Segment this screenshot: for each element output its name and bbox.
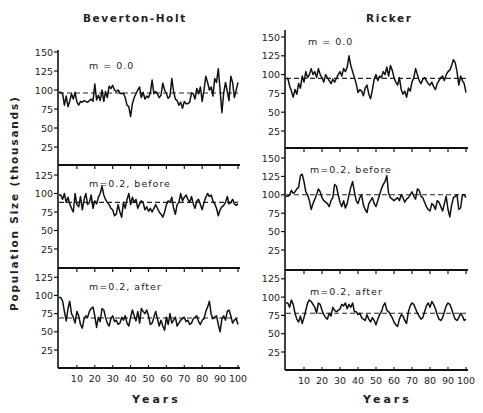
y-tick-label: 50 bbox=[268, 226, 280, 237]
x-tick-label: 20 bbox=[89, 373, 101, 384]
y-tick-label: 125 bbox=[262, 273, 280, 284]
y-tick-label: 25 bbox=[268, 245, 280, 256]
x-tick-label: 70 bbox=[178, 373, 190, 384]
population-series bbox=[59, 186, 238, 217]
y-tick-label: 50 bbox=[268, 107, 280, 118]
y-tick-label: 75 bbox=[268, 88, 280, 99]
y-axis-label: Population Size (thousands) bbox=[8, 131, 20, 311]
y-tick-label: 100 bbox=[35, 290, 53, 301]
y-tick-label: 50 bbox=[41, 326, 53, 337]
x-tick-label: 10 bbox=[71, 373, 83, 384]
y-tick-label: 75 bbox=[41, 207, 53, 218]
y-tick-label: 50 bbox=[41, 123, 53, 134]
y-tick-label: 100 bbox=[35, 85, 53, 96]
x-tick-label: 10 bbox=[298, 375, 310, 386]
panel-label: m = 0.0 bbox=[308, 36, 353, 47]
y-tick-label: 50 bbox=[268, 328, 280, 339]
y-tick-label: 150 bbox=[35, 47, 53, 58]
population-series bbox=[59, 298, 238, 332]
x-tick-label: 50 bbox=[142, 373, 154, 384]
y-tick-label: 100 bbox=[35, 188, 53, 199]
x-tick-label: 20 bbox=[316, 375, 328, 386]
panel-label: m=0.2, after bbox=[310, 286, 383, 297]
y-tick-label: 75 bbox=[41, 104, 53, 115]
y-tick-label: 25 bbox=[41, 142, 53, 153]
y-tick-label: 75 bbox=[41, 308, 53, 319]
y-tick-label: 100 bbox=[262, 69, 280, 80]
panel-label: m=0.2, before bbox=[89, 178, 171, 189]
panel-ricker-0: 255075100125150m = 0.0 bbox=[262, 30, 468, 148]
y-tick-label: 75 bbox=[268, 208, 280, 219]
population-series bbox=[286, 56, 466, 99]
y-tick-label: 150 bbox=[262, 153, 280, 164]
y-tick-label: 25 bbox=[41, 244, 53, 255]
y-tick-label: 150 bbox=[262, 32, 280, 43]
y-tick-label: 25 bbox=[268, 347, 280, 358]
x-tick-label: 100 bbox=[457, 375, 475, 386]
y-tick-label: 125 bbox=[262, 171, 280, 182]
x-tick-label: 80 bbox=[424, 375, 436, 386]
x-tick-label: 30 bbox=[107, 373, 119, 384]
panel-bh-2: 255075100125m=0.2, after1020304050607080… bbox=[35, 268, 247, 384]
x-tick-label: 30 bbox=[334, 375, 346, 386]
x-tick-label: 70 bbox=[406, 375, 418, 386]
x-tick-label: 40 bbox=[125, 373, 137, 384]
x-tick-label: 100 bbox=[229, 373, 247, 384]
x-tick-label: 60 bbox=[160, 373, 172, 384]
y-tick-label: 100 bbox=[262, 292, 280, 303]
panel-ricker-2: 255075100125m=0.2, after1020304050607080… bbox=[262, 270, 475, 386]
y-tick-label: 25 bbox=[41, 345, 53, 356]
panel-label: m=0.2, before bbox=[310, 164, 392, 175]
population-series bbox=[286, 174, 466, 217]
column-title-ricker: Ricker bbox=[366, 12, 413, 24]
y-tick-label: 50 bbox=[41, 225, 53, 236]
panel-label: m=0.2, after bbox=[89, 281, 162, 292]
y-tick-label: 100 bbox=[262, 189, 280, 200]
x-tick-label: 50 bbox=[370, 375, 382, 386]
y-tick-label: 125 bbox=[35, 66, 53, 77]
x-axis-label-right: Years bbox=[363, 393, 412, 406]
x-tick-label: 40 bbox=[352, 375, 364, 386]
panel-label: m = 0.0 bbox=[89, 60, 134, 71]
panel-ricker-1: 255075100125150m=0.2, before bbox=[262, 148, 468, 270]
x-axis-label-left: Years bbox=[132, 393, 181, 406]
y-tick-label: 25 bbox=[268, 126, 280, 137]
y-tick-label: 125 bbox=[35, 170, 53, 181]
panel-bh-0: 255075100125150m = 0.0 bbox=[35, 47, 240, 166]
population-figure: 255075100125150m = 0.0255075100125m=0.2,… bbox=[0, 0, 483, 413]
y-tick-label: 125 bbox=[35, 272, 53, 283]
panel-bh-1: 255075100125m=0.2, before bbox=[35, 165, 240, 268]
x-tick-label: 60 bbox=[388, 375, 400, 386]
y-tick-label: 125 bbox=[262, 50, 280, 61]
x-tick-label: 90 bbox=[214, 373, 226, 384]
y-tick-label: 75 bbox=[268, 310, 280, 321]
x-tick-label: 80 bbox=[196, 373, 208, 384]
x-tick-label: 90 bbox=[442, 375, 454, 386]
column-title-beverton-holt: Beverton-Holt bbox=[83, 12, 187, 24]
